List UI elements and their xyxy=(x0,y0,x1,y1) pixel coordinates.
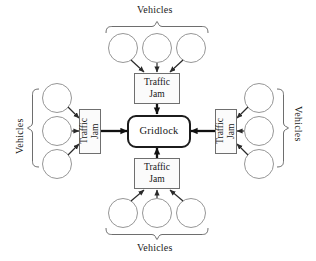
left-vehicle-circles xyxy=(43,84,72,179)
traffic-jam-right-line2: Jam xyxy=(226,124,236,139)
traffic-jam-bottom-line1: Traffic xyxy=(144,162,170,172)
right-vehicle-circles xyxy=(245,84,274,179)
bottom-vehicle-circles xyxy=(109,199,206,228)
gridlock-diagram: Vehicles Vehicles Vehicles Vehicles Traf… xyxy=(0,0,316,261)
top-vehicles-label: Vehicles xyxy=(137,4,172,15)
traffic-jam-box-right[interactable]: Traffic Jam xyxy=(215,109,237,154)
traffic-jam-bottom-line2: Jam xyxy=(149,174,164,184)
right-vehicles-label: Vehicles xyxy=(293,106,304,141)
gridlock-node[interactable]: Gridlock xyxy=(127,115,191,148)
traffic-jam-right-line1: Traffic xyxy=(215,119,225,145)
left-branch-brace xyxy=(28,89,40,167)
traffic-jam-top-line2: Jam xyxy=(149,89,164,99)
top-vehicle-circles xyxy=(109,34,206,63)
traffic-jam-bottom-text: Traffic Jam xyxy=(144,162,170,184)
traffic-jam-right-text: Traffic Jam xyxy=(215,110,237,153)
traffic-jam-top-line1: Traffic xyxy=(144,77,170,87)
traffic-jam-top-text: Traffic Jam xyxy=(144,77,170,99)
right-branch-brace xyxy=(277,89,289,167)
left-vehicles-label: Vehicles xyxy=(14,119,25,154)
traffic-jam-left-text: Traffic Jam xyxy=(79,110,101,153)
bottom-branch-brace xyxy=(106,228,208,240)
gridlock-label: Gridlock xyxy=(140,125,179,137)
traffic-jam-box-bottom[interactable]: Traffic Jam xyxy=(134,158,180,189)
traffic-jam-box-top[interactable]: Traffic Jam xyxy=(134,73,180,104)
traffic-jam-left-line2: Jam xyxy=(90,124,100,139)
top-branch-brace xyxy=(106,22,208,34)
traffic-jam-box-left[interactable]: Traffic Jam xyxy=(79,109,101,154)
bottom-vehicles-label: Vehicles xyxy=(137,242,172,253)
traffic-jam-left-line1: Traffic xyxy=(79,119,89,145)
